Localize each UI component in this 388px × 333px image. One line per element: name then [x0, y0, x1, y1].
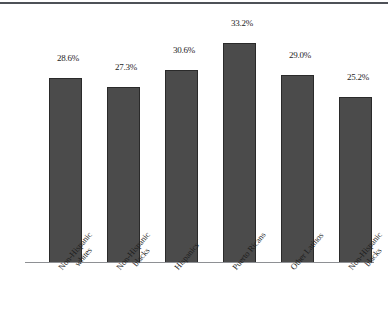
plot-area: 28.6% 27.3% 30.6% 33.2% 29.0% 25.2%: [25, 18, 380, 263]
bar-value-label: 33.2%: [215, 18, 269, 28]
x-axis-tick-labels: Non-Hispanic whites Non-Hispanic blacks …: [25, 264, 380, 333]
bar-slot: 28.6%: [41, 18, 95, 263]
bar[interactable]: [281, 75, 314, 263]
tick-slot: Non-Hispanic blacks: [331, 264, 385, 333]
bar[interactable]: [49, 78, 82, 263]
bar-slot: 27.3%: [99, 18, 153, 263]
bar[interactable]: [339, 97, 372, 263]
bar[interactable]: [223, 43, 256, 263]
bar[interactable]: [107, 87, 140, 263]
top-rule-divider: [0, 2, 388, 4]
bar-value-label: 28.6%: [41, 53, 95, 63]
bar-value-label: 27.3%: [99, 62, 153, 72]
bar-value-label: 29.0%: [273, 50, 327, 60]
tick-slot: Other Latinos: [273, 264, 327, 333]
tick-slot: Puerto Ricans: [215, 264, 269, 333]
bar-slot: 30.6%: [157, 18, 211, 263]
bar[interactable]: [165, 70, 198, 263]
bar-chart-figure: 28.6% 27.3% 30.6% 33.2% 29.0% 25.2%: [0, 0, 388, 333]
bar-value-label: 30.6%: [157, 45, 211, 55]
bar-value-label: 25.2%: [331, 72, 385, 82]
bar-slot: 33.2%: [215, 18, 269, 263]
bar-slot: 25.2%: [331, 18, 385, 263]
tick-slot: Non-Hispanic blacks: [99, 264, 153, 333]
bar-slot: 29.0%: [273, 18, 327, 263]
tick-slot: Non-Hispanic whites: [41, 264, 95, 333]
tick-slot: Hispanics: [157, 264, 211, 333]
